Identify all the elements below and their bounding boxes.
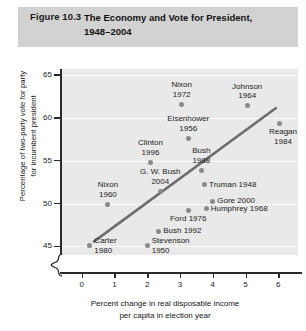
data-point[interactable]: [156, 229, 161, 234]
data-point[interactable]: [186, 136, 191, 141]
data-point-label: Carter1980: [94, 236, 116, 255]
data-point-label: Reagan1984: [269, 127, 297, 146]
data-point[interactable]: [179, 102, 184, 107]
data-point[interactable]: [210, 199, 215, 204]
data-point[interactable]: [204, 206, 209, 211]
data-point-label: Nixon1960: [98, 180, 118, 199]
data-point-label: Bush1988: [192, 146, 210, 165]
y-axis-title: Percentage of two-party vote for partyfo…: [17, 61, 39, 211]
data-point-label: Eisenhower1956: [167, 114, 209, 133]
data-point[interactable]: [148, 160, 153, 165]
data-point-label: G. W. Bush2004: [140, 167, 180, 186]
data-point-label: Clinton1996: [138, 138, 163, 157]
figure-container: Figure 10.3 The Economy and Vote for Pre…: [0, 0, 306, 331]
data-point[interactable]: [158, 189, 163, 194]
data-point[interactable]: [186, 208, 191, 213]
figure-title: The Economy and Vote for President,1948–…: [84, 11, 278, 38]
figure-number: Figure 10.3: [30, 11, 81, 22]
data-point[interactable]: [199, 168, 204, 173]
data-point-label: Humphrey 1968: [211, 204, 268, 214]
plot-wrapper: 4550556065 0123456 Nixon1972Johnson1964E…: [0, 55, 306, 331]
data-point-label: Bush 1992: [163, 226, 201, 236]
data-point[interactable]: [145, 243, 150, 248]
data-point-label: Stevenson1950: [152, 236, 190, 255]
data-point-label: Johnson1964: [232, 82, 262, 101]
data-point-label: Ford 1976: [170, 214, 206, 224]
data-point-label: Nixon1972: [171, 80, 191, 99]
data-point-label: Truman 1948: [209, 180, 256, 190]
x-axis-title: Percent change in real disposable income…: [40, 298, 290, 321]
